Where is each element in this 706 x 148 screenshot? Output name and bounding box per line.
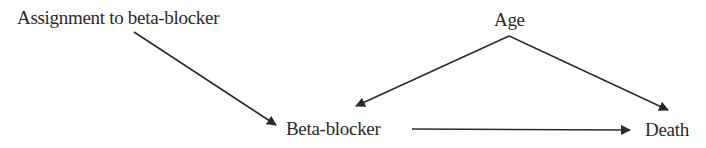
edge-assignment-to-beta-blocker xyxy=(134,32,276,125)
causal-diagram: Assignment to beta-blocker Age Beta-bloc… xyxy=(0,0,706,148)
node-beta-blocker: Beta-blocker xyxy=(286,119,381,139)
edge-age-to-death xyxy=(509,36,668,110)
edge-age-to-beta-blocker xyxy=(356,36,509,106)
node-death: Death xyxy=(645,120,689,140)
node-age: Age xyxy=(494,10,525,30)
node-assignment: Assignment to beta-blocker xyxy=(17,8,219,28)
edge-beta-blocker-to-death xyxy=(412,129,630,130)
